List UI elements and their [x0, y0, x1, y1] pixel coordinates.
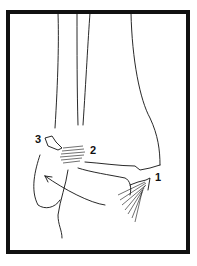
ankle-drawing [0, 0, 197, 266]
fragment-3 [45, 136, 62, 150]
fibula-outline-left [55, 13, 58, 128]
label-2: 2 [90, 145, 96, 156]
calcaneus-outline [58, 170, 68, 238]
medial-malleolus [130, 178, 150, 190]
label-1: 1 [155, 172, 161, 183]
fibula-outline-right [83, 13, 90, 125]
rotation-arrow-line [45, 176, 105, 205]
tibia-plafond [85, 162, 160, 170]
talus-top [78, 168, 131, 195]
label-3: 3 [35, 134, 41, 145]
ligament-2-hatch [60, 146, 85, 163]
talus-lateral [34, 155, 60, 208]
ligament-1-hatch [118, 182, 146, 222]
fibula-outline-inner [77, 13, 78, 125]
tibia-outline-right [131, 13, 160, 165]
